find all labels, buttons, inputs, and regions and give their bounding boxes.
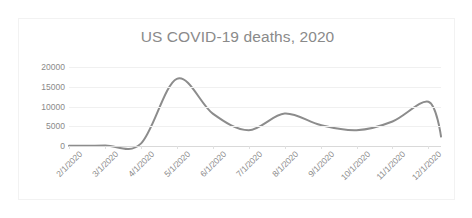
x-tick-label: 10/1/2020 <box>338 149 371 182</box>
x-tick-label: 11/1/2020 <box>375 149 408 182</box>
gridline <box>69 126 441 127</box>
x-tick-label: 6/1/2020 <box>198 149 228 179</box>
x-tick-label: 5/1/2020 <box>162 149 192 179</box>
x-tick-label: 8/1/2020 <box>270 149 300 179</box>
x-tick-label: 12/1/2020 <box>410 149 443 182</box>
x-tick-mark <box>213 146 214 149</box>
x-tick-mark <box>392 146 393 149</box>
x-tick-label: 2/1/2020 <box>54 149 84 179</box>
y-tick-label: 15000 <box>19 82 65 92</box>
x-tick-label: 9/1/2020 <box>306 149 336 179</box>
y-tick-label: 20000 <box>19 62 65 72</box>
y-tick-label: 10000 <box>19 102 65 112</box>
chart-title: US COVID-19 deaths, 2020 <box>19 28 456 46</box>
axis-baseline <box>69 146 441 147</box>
gridline <box>69 87 441 88</box>
x-tick-label: 3/1/2020 <box>90 149 120 179</box>
x-tick-mark <box>177 146 178 149</box>
x-tick-mark <box>141 146 142 149</box>
x-tick-mark <box>285 146 286 149</box>
x-tick-mark <box>69 146 70 149</box>
plot-area <box>69 67 441 146</box>
x-tick-mark <box>357 146 358 149</box>
y-axis: 20000150001000050000 <box>19 67 65 146</box>
x-tick-label: 4/1/2020 <box>126 149 156 179</box>
chart-card: US COVID-19 deaths, 2020 200001500010000… <box>18 18 455 200</box>
x-axis: 2/1/20203/1/20204/1/20205/1/20206/1/2020… <box>69 149 449 199</box>
gridline <box>69 67 441 68</box>
x-tick-mark <box>105 146 106 149</box>
x-tick-mark <box>428 146 429 149</box>
y-tick-label: 5000 <box>19 121 65 131</box>
x-tick-mark <box>249 146 250 149</box>
gridline <box>69 107 441 108</box>
y-tick-label: 0 <box>19 141 65 151</box>
x-tick-label: 7/1/2020 <box>234 149 264 179</box>
x-tick-mark <box>321 146 322 149</box>
